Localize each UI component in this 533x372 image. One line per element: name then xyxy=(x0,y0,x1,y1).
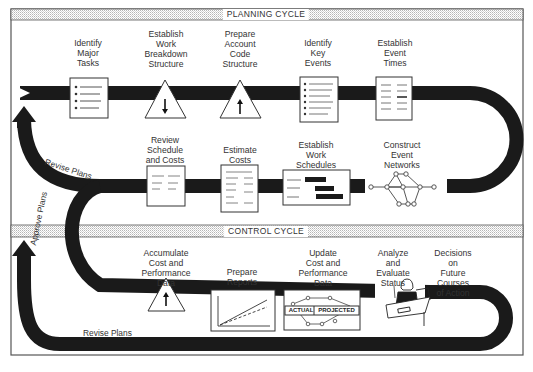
bulleted-list-document-icon xyxy=(300,77,338,122)
gantt-chart-icon xyxy=(283,170,350,205)
step-analyze-evaluate-status: Analyze and Evaluate Status xyxy=(376,248,409,288)
step-prepare-reports: Prepare Reports xyxy=(227,267,258,287)
projected-label: PROJECTED xyxy=(314,306,359,315)
document-icon xyxy=(221,165,258,212)
step-estimate-costs: Estimate Costs xyxy=(223,145,256,165)
document-icon xyxy=(147,166,185,206)
actual-label: ACTUAL xyxy=(288,306,314,315)
two-column-document-icon xyxy=(376,77,412,120)
step-update-cost-data: Update Cost and Performance Data xyxy=(298,248,347,288)
step-establish-event-times: Establish Event Times xyxy=(378,38,413,68)
step-establish-work-schedules: Establish Work Schedules xyxy=(296,140,336,170)
step-prepare-account-code: Prepare Account Code Structure xyxy=(223,29,258,69)
revise-plans-lower-label: Revise Plans xyxy=(83,328,132,338)
step-decisions-future-action: Decisions on Future Courses of Action xyxy=(434,248,471,298)
step-accumulate-cost-data: Accumulate Cost and Performance Data xyxy=(141,248,190,288)
revise-plans-arrowhead-upper xyxy=(12,106,36,122)
step-identify-major-tasks: Identify Major Tasks xyxy=(74,38,102,68)
step-establish-wbs: Establish Work Breakdown Structure xyxy=(145,29,188,69)
bulleted-list-document-icon xyxy=(70,78,108,118)
step-review-schedule-costs: Review Schedule and Costs xyxy=(146,135,185,165)
line-chart-icon xyxy=(211,290,275,331)
step-construct-event-networks: Construct Event Networks xyxy=(384,140,421,170)
step-identify-key-events: Identify Key Events xyxy=(304,38,332,68)
planning-cycle-header: PLANNING CYCLE xyxy=(223,9,309,20)
control-cycle-header: CONTROL CYCLE xyxy=(224,226,308,237)
